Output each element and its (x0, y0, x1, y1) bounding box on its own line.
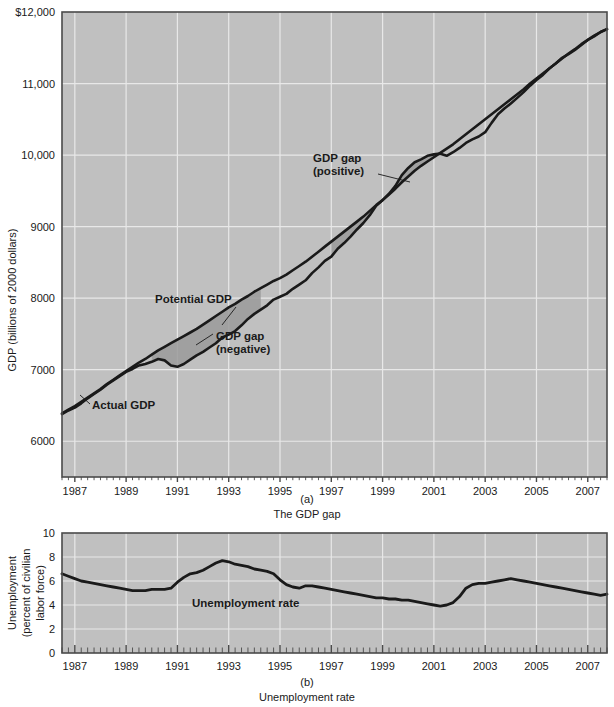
panel-b-xtick-label: 2001 (422, 660, 446, 672)
panel-a-ytick-label: 7000 (31, 364, 55, 376)
panel-b-xtick-label: 1991 (165, 660, 189, 672)
panel-a-annotation-gap-positive-line1: GDP gap (313, 152, 361, 164)
panel-a-xtick-label: 2001 (422, 485, 446, 497)
panel-b-xtick-label: 1995 (268, 660, 292, 672)
panel-a-label: (a) (300, 493, 313, 505)
panel-b-xtick-label: 2003 (473, 660, 497, 672)
panel-a-ytick-label: 10,000 (21, 149, 55, 161)
panel-a-annotation-gap-negative-line2: (negative) (216, 343, 270, 355)
panel-b (62, 533, 607, 653)
panel-b-xtick-label: 2007 (576, 660, 600, 672)
panel-a-xtick-label: 2003 (473, 485, 497, 497)
figure-gdp-gap-and-unemployment: $12,00011,00010,000900080007000600019871… (0, 0, 614, 707)
panel-b-ytick-label: 4 (49, 599, 55, 611)
panel-a (62, 12, 607, 482)
panel-b-xtick-label: 1989 (114, 660, 138, 672)
chart-canvas: $12,00011,00010,000900080007000600019871… (0, 0, 614, 707)
panel-a-annotation-potential-gdp: Potential GDP (155, 293, 232, 305)
panel-a-ytick-label: 9000 (31, 221, 55, 233)
panel-b-xtick-label: 2005 (524, 660, 548, 672)
panel-a-xtick-label: 1999 (370, 485, 394, 497)
panel-a-ytick-label: 11,000 (22, 78, 55, 90)
panel-b-caption: Unemployment rate (259, 691, 355, 703)
panel-b-axis-title-line: labor force) (34, 565, 46, 621)
panel-b-plot-background (62, 533, 607, 653)
panel-a-xtick-label: 1987 (63, 485, 87, 497)
panel-a-xtick-label: 2007 (576, 485, 600, 497)
panel-b-axis-title-line: Unemployment (6, 556, 18, 630)
panel-b-xtick-label: 1993 (216, 660, 240, 672)
panel-b-label: (b) (300, 676, 313, 688)
panel-a-ytick-label: 8000 (31, 292, 55, 304)
panel-a-xtick-label: 1989 (114, 485, 138, 497)
panel-b-ytick-label: 10 (43, 527, 55, 539)
panel-a-annotation-gap-positive-line2: (positive) (313, 165, 364, 177)
panel-a-annotation-gap-negative-line1: GDP gap (216, 330, 264, 342)
panel-a-caption: The GDP gap (273, 508, 340, 520)
panel-b-axis-title-line: (percent of civilian (20, 549, 32, 638)
panel-a-ytick-label: 6000 (31, 435, 55, 447)
panel-b-ytick-label: 8 (49, 551, 55, 563)
panel-b-xtick-label: 1999 (370, 660, 394, 672)
panel-b-ytick-label: 0 (49, 647, 55, 659)
panel-b-ytick-label: 6 (49, 575, 55, 587)
panel-a-xtick-label: 1995 (268, 485, 292, 497)
panel-a-xtick-label: 2005 (524, 485, 548, 497)
panel-b-annotation-unemployment-rate: Unemployment rate (192, 597, 299, 609)
panel-b-xtick-label: 1997 (319, 660, 343, 672)
panel-b-ytick-label: 2 (49, 623, 55, 635)
panel-a-ytick-label: $12,000 (15, 6, 55, 18)
panel-a-xtick-label: 1991 (165, 485, 189, 497)
panel-a-axis-title: GDP (billions of 2000 dollars) (6, 229, 18, 372)
panel-b-xtick-label: 1987 (63, 660, 87, 672)
panel-a-xtick-label: 1993 (216, 485, 240, 497)
panel-a-xtick-label: 1997 (319, 485, 343, 497)
panel-a-annotation-actual-gdp: Actual GDP (92, 399, 156, 411)
